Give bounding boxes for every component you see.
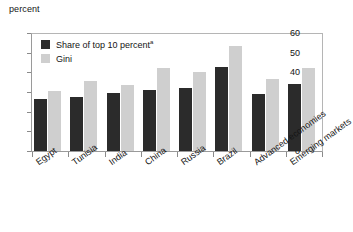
legend-swatch-icon xyxy=(41,40,50,49)
x-axis-tick-mark xyxy=(213,152,214,157)
legend-label: Share of top 10 percenta xyxy=(56,40,153,50)
bar-russia-gini xyxy=(193,72,206,151)
x-axis-tick-mark xyxy=(177,152,178,157)
bar-egypt-gini xyxy=(48,91,61,151)
x-axis-tick-mark xyxy=(141,152,142,157)
bar-tunisia-share-of-top-10-percent xyxy=(70,97,83,151)
bar-group xyxy=(213,33,249,151)
x-axis-tick-mark xyxy=(250,152,251,157)
legend-label: Gini xyxy=(56,54,72,64)
y-axis-tick-mark xyxy=(27,72,31,73)
bar-egypt-share-of-top-10-percent xyxy=(34,99,47,151)
bar-group xyxy=(177,33,213,151)
bar-tunisia-gini xyxy=(84,81,97,151)
bar-india-share-of-top-10-percent xyxy=(107,93,120,151)
bar-advanced-economies-share-of-top-10-percent xyxy=(252,94,265,151)
y-axis-tick-mark xyxy=(27,151,31,152)
y-axis-unit-label: percent xyxy=(9,4,40,15)
y-axis-tick-mark xyxy=(27,92,31,93)
x-axis-tick-mark xyxy=(105,152,106,157)
x-axis-tick-mark xyxy=(322,152,323,157)
x-axis-tick-mark xyxy=(32,152,33,157)
bar-china-share-of-top-10-percent xyxy=(143,90,156,151)
bar-india-gini xyxy=(121,85,134,151)
y-axis-tick-mark xyxy=(27,33,31,34)
bar-russia-share-of-top-10-percent xyxy=(179,88,192,151)
y-axis-tick-mark xyxy=(27,53,31,54)
legend: Share of top 10 percentaGini xyxy=(41,38,153,66)
x-axis-tick-mark xyxy=(286,152,287,157)
legend-swatch-icon xyxy=(41,54,50,63)
y-axis-tick-mark xyxy=(27,131,31,132)
legend-item: Share of top 10 percenta xyxy=(41,38,153,51)
bar-brazil-share-of-top-10-percent xyxy=(215,67,228,151)
x-axis-tick-mark xyxy=(68,152,69,157)
legend-footnote-marker: a xyxy=(150,39,153,45)
y-axis-tick-mark xyxy=(27,112,31,113)
bar-group xyxy=(250,33,286,151)
bar-emerging-markets-gini xyxy=(302,68,315,151)
bar-brazil-gini xyxy=(229,46,242,151)
legend-item: Gini xyxy=(41,52,153,65)
bar-china-gini xyxy=(157,68,170,151)
